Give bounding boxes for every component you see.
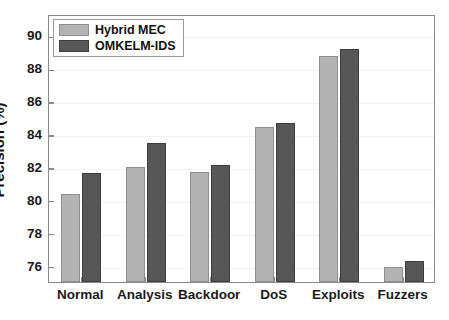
y-tick-mark-88: [49, 70, 54, 71]
bar-exploits-hybrid-mec: [319, 56, 338, 282]
bar-normal-omkelm-ids: [82, 173, 101, 282]
clipped-caption-strip: [0, 312, 449, 320]
y-tick-mark-86: [49, 102, 54, 103]
gridline-76: [49, 268, 434, 269]
y-tick-label-88: 88: [12, 61, 42, 76]
x-tick-label-dos: DoS: [260, 287, 287, 302]
x-tick-label-analysis: Analysis: [117, 287, 173, 302]
gridline-84: [49, 136, 434, 137]
bar-analysis-hybrid-mec: [126, 167, 145, 282]
bar-normal-hybrid-mec: [61, 194, 80, 282]
y-tick-label-76: 76: [12, 259, 42, 274]
bar-fuzzers-omkelm-ids: [405, 261, 424, 282]
y-tick-mark-80: [49, 201, 54, 202]
bar-backdoor-hybrid-mec: [190, 172, 209, 282]
bar-backdoor-omkelm-ids: [211, 165, 230, 282]
legend-entry-hybrid-mec: Hybrid MEC: [59, 24, 176, 37]
x-tick-label-exploits: Exploits: [312, 287, 365, 302]
legend-entry-omkelm-ids: OMKELM-IDS: [59, 40, 176, 53]
y-tick-label-82: 82: [12, 160, 42, 175]
y-tick-mark-84: [49, 135, 54, 136]
legend-swatch-omkelm-ids: [59, 40, 89, 52]
y-tick-mark-82: [49, 168, 54, 169]
bar-fuzzers-hybrid-mec: [384, 267, 403, 282]
gridline-88: [49, 70, 434, 71]
precision-bar-chart-figure: Precision (%) 7678808284868890 NormalAna…: [0, 0, 449, 320]
bar-exploits-omkelm-ids: [340, 49, 359, 282]
y-tick-label-84: 84: [12, 127, 42, 142]
x-tick-label-normal: Normal: [57, 287, 104, 302]
y-tick-label-86: 86: [12, 94, 42, 109]
x-tick-label-fuzzers: Fuzzers: [378, 287, 428, 302]
bar-dos-hybrid-mec: [255, 127, 274, 282]
y-tick-label-80: 80: [12, 193, 42, 208]
y-tick-label-90: 90: [12, 28, 42, 43]
y-tick-mark-78: [49, 234, 54, 235]
y-tick-mark-76: [49, 267, 54, 268]
y-tick-label-78: 78: [12, 226, 42, 241]
gridline-80: [49, 202, 434, 203]
gridline-86: [49, 103, 434, 104]
legend-label-omkelm-ids: OMKELM-IDS: [95, 40, 176, 53]
x-tick-label-backdoor: Backdoor: [178, 287, 240, 302]
chart-legend: Hybrid MEC OMKELM-IDS: [53, 19, 184, 57]
y-axis-title: Precision (%): [0, 102, 7, 197]
gridline-82: [49, 169, 434, 170]
bar-dos-omkelm-ids: [276, 123, 295, 282]
bar-analysis-omkelm-ids: [147, 143, 166, 282]
legend-swatch-hybrid-mec: [59, 24, 89, 36]
gridline-78: [49, 235, 434, 236]
legend-label-hybrid-mec: Hybrid MEC: [95, 24, 166, 37]
